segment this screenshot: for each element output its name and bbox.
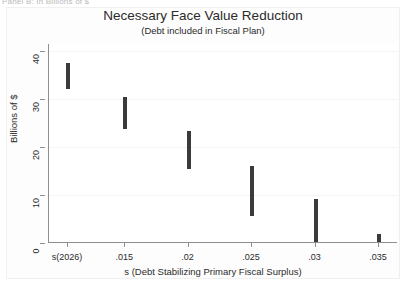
gridline [49, 195, 397, 196]
range-bar [250, 166, 254, 216]
chart-figure: Panel B: In Billions of $ Necessary Face… [0, 0, 406, 283]
x-tick-label: .03 [308, 252, 321, 262]
x-tick-mark [188, 243, 189, 247]
range-bar [123, 97, 127, 129]
y-tick-label: 10 [31, 195, 41, 211]
x-tick-label: .02 [181, 252, 194, 262]
x-tick-mark [124, 243, 125, 247]
gridline [49, 51, 397, 52]
x-axis-title: s (Debt Stabilizing Primary Fiscal Surpl… [10, 266, 406, 277]
x-tick-label: .025 [242, 252, 260, 262]
x-tick-mark [67, 243, 68, 247]
range-bar [377, 234, 381, 242]
plot-series-layer [49, 44, 397, 242]
x-tick-label: .015 [115, 252, 133, 262]
y-tick-label: 40 [31, 51, 41, 67]
y-tick-label: 20 [31, 147, 41, 163]
x-tick-label: .035 [369, 252, 387, 262]
x-tick-mark [315, 243, 316, 247]
range-bar [187, 131, 191, 169]
gridline [49, 99, 397, 100]
x-axis: s (Debt Stabilizing Primary Fiscal Surpl… [0, 242, 406, 283]
range-bar [314, 199, 318, 242]
y-axis-title: Billions of $ [8, 94, 19, 143]
y-tick-label: 30 [31, 99, 41, 115]
y-axis: Billions of $ 010203040 [0, 0, 48, 283]
x-tick-label: s(2026) [52, 252, 83, 262]
x-tick-mark [378, 243, 379, 247]
plot-area [48, 44, 397, 243]
x-tick-mark [251, 243, 252, 247]
range-bar [66, 63, 70, 89]
gridline [49, 147, 397, 148]
